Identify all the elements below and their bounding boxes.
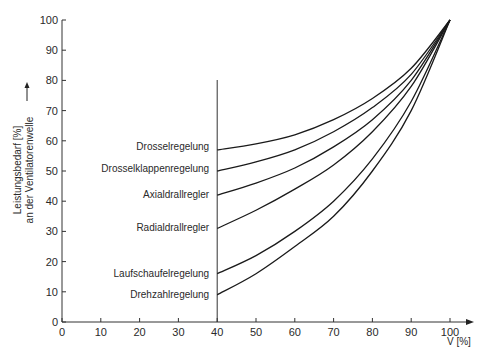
series-labels: DrosselregelungDrosselklappenregelungAxi… <box>101 141 210 300</box>
y-tick-label: 60 <box>46 135 58 147</box>
y-tick-label: 80 <box>46 74 58 86</box>
x-axis-arrow-icon <box>466 319 474 325</box>
series-label: Laufschaufelregelung <box>114 268 210 279</box>
x-tick-label: 70 <box>327 326 339 338</box>
x-tick-label: 10 <box>95 326 107 338</box>
y-axis-label-line1: Leistungsbedarf [%] <box>12 126 23 215</box>
series-label: Drehzahlregelung <box>130 289 209 300</box>
x-tick-label: 40 <box>211 326 223 338</box>
curves <box>217 20 450 295</box>
x-tick-label: 50 <box>250 326 262 338</box>
curve-drehzahlregelung <box>217 20 450 295</box>
y-tick-label: 40 <box>46 195 58 207</box>
series-label: Drosselklappenregelung <box>101 163 209 174</box>
series-label: Radialdrallregler <box>136 222 209 233</box>
series-label: Axialdrallregler <box>143 189 210 200</box>
y-axis-arrow-head-icon <box>25 82 30 88</box>
x-axis-label: V̇ [%] <box>447 335 471 347</box>
y-tick-label: 0 <box>52 316 58 328</box>
x-tick-label: 20 <box>133 326 145 338</box>
y-axis-label-line2: an der Ventilatorenwelle <box>24 116 35 223</box>
tick-labels: 0102030405060708090100010203040506070809… <box>40 14 460 338</box>
curve-radialdrallregler <box>217 20 450 228</box>
y-tick-label: 100 <box>40 14 58 26</box>
curve-drosselregelung <box>217 20 450 150</box>
y-tick-label: 30 <box>46 225 58 237</box>
x-tick-label: 60 <box>289 326 301 338</box>
y-tick-label: 70 <box>46 105 58 117</box>
chart-container: 0102030405060708090100010203040506070809… <box>0 0 485 362</box>
y-tick-label: 50 <box>46 165 58 177</box>
curve-axialdrallregler <box>217 20 450 195</box>
y-tick-label: 10 <box>46 286 58 298</box>
y-tick-label: 90 <box>46 44 58 56</box>
y-tick-label: 20 <box>46 256 58 268</box>
series-label: Drosselregelung <box>136 141 209 152</box>
y-axis-title: Leistungsbedarf [%] an der Ventilatorenw… <box>12 82 35 223</box>
x-tick-label: 0 <box>59 326 65 338</box>
x-tick-label: 80 <box>366 326 378 338</box>
x-tick-label: 30 <box>172 326 184 338</box>
x-tick-label: 90 <box>405 326 417 338</box>
line-chart: 0102030405060708090100010203040506070809… <box>0 0 485 362</box>
